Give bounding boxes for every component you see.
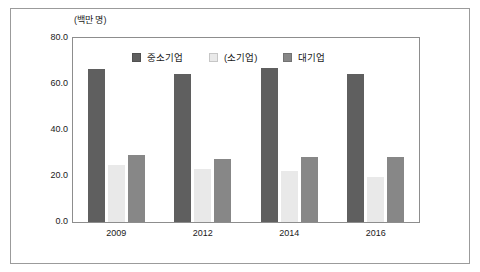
chart-figure: (백만 명) 0.020.040.060.080.0 중소기업(소기업)대기업 … bbox=[0, 0, 480, 272]
axis-unit-label: (백만 명) bbox=[74, 13, 107, 26]
y-axis-tick-labels: 0.020.040.060.080.0 bbox=[30, 37, 68, 223]
bar bbox=[108, 165, 125, 222]
x-axis-tick: 2012 bbox=[193, 228, 213, 238]
bar-group bbox=[246, 38, 333, 222]
bar bbox=[88, 69, 105, 222]
x-axis-tick: 2016 bbox=[366, 228, 386, 238]
bar bbox=[367, 177, 384, 222]
bar bbox=[281, 171, 298, 222]
bar-group bbox=[333, 38, 420, 222]
y-axis-tick: 60.0 bbox=[34, 78, 68, 88]
x-axis-tick-labels: 2009201220142016 bbox=[73, 228, 419, 244]
x-axis-tick: 2009 bbox=[106, 228, 126, 238]
bar bbox=[214, 159, 231, 222]
bar-group bbox=[73, 38, 160, 222]
y-axis-tick: 40.0 bbox=[34, 124, 68, 134]
bars-layer bbox=[73, 38, 419, 222]
bar bbox=[261, 68, 278, 222]
bar bbox=[128, 155, 145, 222]
bar bbox=[194, 169, 211, 222]
bar bbox=[301, 157, 318, 222]
bar-group bbox=[160, 38, 247, 222]
bar bbox=[347, 74, 364, 222]
bar bbox=[387, 157, 404, 222]
x-axis-tick: 2014 bbox=[279, 228, 299, 238]
y-axis-tick: 20.0 bbox=[34, 170, 68, 180]
y-axis-tick: 80.0 bbox=[34, 32, 68, 42]
y-axis-tick: 0.0 bbox=[34, 216, 68, 226]
bar bbox=[174, 74, 191, 222]
